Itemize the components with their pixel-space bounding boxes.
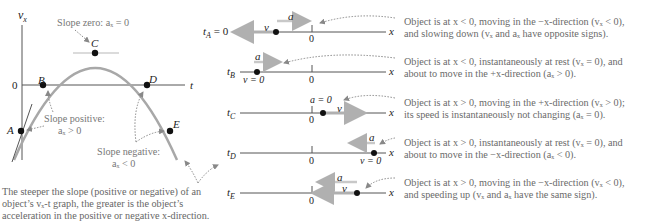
velocity-label-e: v bbox=[342, 182, 347, 194]
zero-label-a: 0 bbox=[309, 33, 314, 44]
time-label-c: tC bbox=[227, 106, 235, 121]
caption-line-2: object’s vₓ-t graph, the greater is the … bbox=[2, 198, 242, 210]
vx-axis-label: vx bbox=[18, 8, 27, 24]
point-c bbox=[92, 50, 98, 56]
x-label-b: x bbox=[389, 65, 394, 77]
point-b-label: B bbox=[38, 74, 45, 86]
point-e-label: E bbox=[173, 118, 180, 130]
acceleration-label-d: a bbox=[369, 131, 375, 143]
x-label-d: x bbox=[389, 146, 394, 158]
x-label-c: x bbox=[389, 106, 394, 118]
point-a bbox=[18, 128, 24, 134]
slope-positive-annotation-2: aₓ > 0 bbox=[58, 125, 81, 137]
time-label-d: tD bbox=[227, 146, 236, 161]
point-d-label: D bbox=[149, 73, 157, 85]
acceleration-label-a: a bbox=[288, 10, 294, 22]
motion-row-b bbox=[240, 55, 395, 75]
description-d: Object is at x > 0, instantaneously at r… bbox=[404, 137, 647, 161]
description-e: Object is at x > 0, moving in the −x-dir… bbox=[404, 177, 647, 201]
x-label-a: x bbox=[389, 25, 394, 37]
point-a-label: A bbox=[7, 124, 14, 136]
acceleration-label-c: a = 0 bbox=[310, 94, 332, 105]
origin-label: 0 bbox=[12, 79, 18, 91]
velocity-label-d: v = 0 bbox=[360, 155, 381, 166]
slope-negative-annotation-2: aₓ < 0 bbox=[112, 158, 135, 170]
object-dot bbox=[273, 29, 279, 35]
time-label-a: tA = 0 bbox=[203, 25, 228, 40]
caption-line-3: acceleration in the positive or negative… bbox=[2, 210, 242, 222]
time-label-b: tB bbox=[227, 65, 235, 80]
velocity-label-c: v bbox=[337, 102, 342, 114]
zero-label-d: 0 bbox=[309, 155, 314, 166]
t-axis-label: t bbox=[190, 79, 193, 91]
description-b: Object is at x < 0, instantaneously at r… bbox=[404, 56, 647, 80]
zero-label-e: 0 bbox=[309, 195, 314, 206]
arrow-slope-zero bbox=[75, 30, 89, 42]
x-label-e: x bbox=[389, 186, 394, 198]
arrow-caption-right bbox=[198, 165, 218, 183]
slope-positive-annotation-1: Slope positive: bbox=[44, 113, 105, 125]
motion-row-e bbox=[240, 178, 395, 196]
point-c-label: C bbox=[91, 37, 98, 49]
slope-negative-annotation-1: Slope negative: bbox=[97, 146, 160, 158]
arrow-caption-left bbox=[185, 161, 198, 183]
object-dot bbox=[354, 190, 360, 196]
zero-label-c: 0 bbox=[309, 114, 314, 125]
caption-line-1: The steeper the slope (positive or negat… bbox=[2, 186, 242, 198]
slope-zero-annotation: Slope zero: aₓ = 0 bbox=[57, 17, 129, 29]
velocity-label-b: v = 0 bbox=[243, 74, 264, 85]
arrow-slope-neg-e bbox=[136, 131, 164, 142]
velocity-label-a: v bbox=[264, 21, 269, 33]
graph-caption: The steeper the slope (positive or negat… bbox=[2, 186, 242, 222]
time-label-e: tE bbox=[227, 186, 235, 201]
acceleration-label-b: a bbox=[255, 50, 261, 62]
object-dot bbox=[320, 110, 326, 116]
description-a: Object is at x < 0, moving in the −x-dir… bbox=[404, 16, 647, 40]
description-c: Object is at x > 0, moving in the +x-dir… bbox=[404, 97, 647, 121]
zero-label-b: 0 bbox=[309, 74, 314, 85]
